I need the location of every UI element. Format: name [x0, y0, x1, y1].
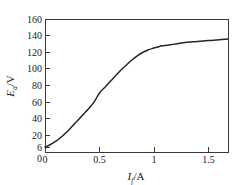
plot-background [45, 19, 228, 152]
y-tick-label: 60 [32, 97, 42, 108]
y-tick-label: 20 [32, 130, 42, 141]
y-axis-title: Ea/V [4, 75, 19, 98]
x-tick-label: 1.5 [202, 154, 215, 165]
x-axis-title: If/A [127, 170, 145, 185]
x-axis-tick-labels: 0 0.5 1 1.5 [43, 154, 215, 165]
x-tick-label: 0.5 [93, 154, 106, 165]
y-tick-label: 120 [27, 47, 42, 58]
chart-figure: 160 140 120 100 80 60 40 20 6 0 0 0.5 1 … [0, 0, 242, 185]
y-tick-label-zero: 0 [37, 153, 42, 164]
y-tick-label: 140 [27, 30, 42, 41]
y-tick-label: 160 [27, 14, 42, 25]
x-tick-label: 1 [152, 154, 157, 165]
y-tick-label: 80 [32, 80, 42, 91]
y-tick-label: 100 [27, 63, 42, 74]
y-tick-label: 40 [32, 113, 42, 124]
x-axis-unit: /A [133, 170, 144, 182]
x-tick-label: 0 [43, 154, 48, 165]
magnetization-curve-chart: 160 140 120 100 80 60 40 20 6 0 0 0.5 1 … [0, 0, 242, 185]
y-tick-label-residual: 6 [37, 142, 42, 153]
y-axis-tick-labels: 160 140 120 100 80 60 40 20 6 0 [27, 14, 42, 164]
y-axis-unit: /V [4, 75, 16, 86]
